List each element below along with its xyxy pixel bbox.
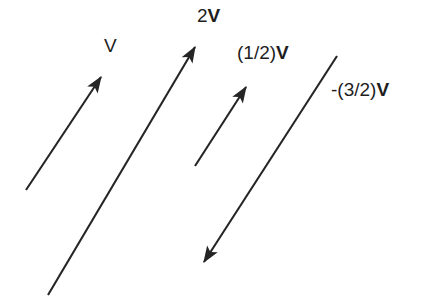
vector-label-neg-3-2v: -(3/2)V [331,80,389,100]
vector-arrow-neg-3-2v [204,56,337,262]
vector-arrow-half-v [195,87,246,166]
vector-label-neg-3-2v-plain: -(3/2) [331,79,376,100]
vector-label-half-v-plain: (1/2) [237,42,276,63]
vector-label-2v-plain: 2 [197,5,208,26]
vector-label-v: V [104,36,117,56]
vector-label-v-plain: V [104,35,117,56]
vector-canvas [0,0,425,308]
vector-label-neg-3-2v-bold: V [376,79,389,100]
vector-label-half-v-bold: V [276,42,289,63]
vector-arrow-v [26,77,101,190]
vector-label-2v-bold: V [208,5,221,26]
vector-arrow-2v [48,47,195,295]
vector-label-2v: 2V [197,6,220,26]
vector-diagram: V 2V (1/2)V -(3/2)V [0,0,425,308]
vector-label-half-v: (1/2)V [237,43,289,63]
